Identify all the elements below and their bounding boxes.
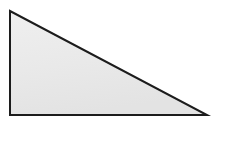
triangle-figure-svg [0, 0, 225, 158]
figure-canvas [0, 0, 225, 158]
right-triangle-shape [10, 11, 207, 115]
